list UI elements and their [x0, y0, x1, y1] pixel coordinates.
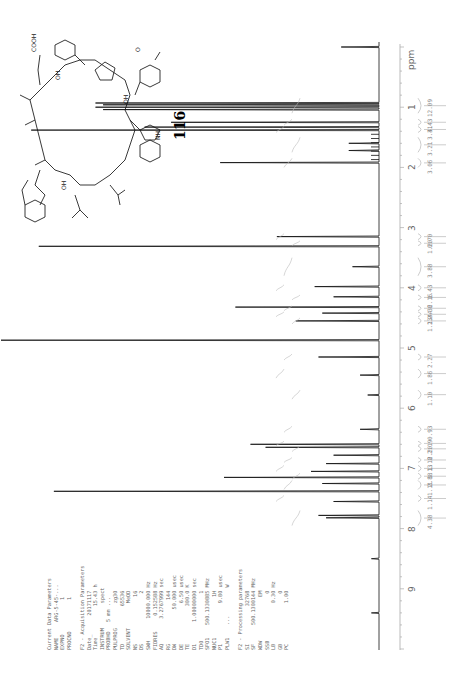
svg-text:O: O	[134, 47, 141, 52]
ppm-tick-label: 2	[407, 165, 417, 171]
ppm-tick-label: 9	[407, 586, 417, 592]
integral-value: 1.86	[426, 370, 433, 384]
svg-text:OH: OH	[60, 181, 67, 190]
integral-value: 0.93	[426, 426, 433, 440]
integral-value: 4.38	[426, 515, 433, 529]
integral-value: 1.11	[426, 482, 433, 496]
ppm-tick-label: 3	[407, 225, 417, 231]
ppm-tick-label: 6	[407, 405, 417, 411]
ppm-tick-label: 7	[407, 466, 417, 472]
compound-number-label: 116	[172, 111, 188, 140]
ppm-tick-label: 5	[407, 345, 417, 351]
integral-value: 1.10	[426, 391, 433, 405]
ppm-unit-label: ppm	[406, 50, 416, 70]
acquisition-parameters-block: Current Data Parameters NAME ARG-5-45-..…	[46, 566, 290, 650]
integral-value: 1.13	[426, 317, 433, 331]
spectrum-trace	[1, 42, 379, 650]
ppm-tick-label: 1	[407, 104, 417, 110]
molecule-structure-116	[20, 40, 160, 222]
integral-value: 1.20	[426, 240, 433, 254]
molecule-atom-labels: COOH O OH OH NH OH	[30, 34, 161, 190]
ppm-tick-label: 8	[407, 526, 417, 532]
spectrum-path	[1, 42, 379, 650]
integral-value: 3.06	[426, 159, 433, 173]
integral-value: 12.09	[426, 99, 433, 117]
integral-value: 1.14	[426, 495, 433, 509]
ppm-tick-label: 4	[407, 285, 417, 291]
ppm-axis-ticks	[400, 47, 404, 649]
integral-value: 3.21	[426, 141, 433, 155]
integral-value: 3.88	[426, 263, 433, 277]
integral-value: 2.27	[426, 354, 433, 368]
nmr-figure: COOH O OH OH NH OH 123456789 12.093.433.…	[0, 0, 470, 679]
svg-text:NH: NH	[154, 131, 161, 140]
integral-value: 3.41	[426, 126, 433, 140]
svg-text:OH: OH	[54, 71, 61, 80]
svg-text:COOH: COOH	[30, 34, 37, 52]
